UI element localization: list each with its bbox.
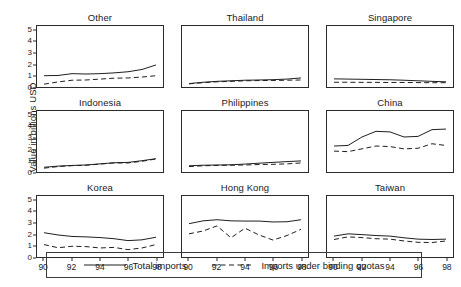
plot-area [36,25,164,88]
series-line-binding-quotas [44,76,156,84]
y-tick-label: 0 [28,84,32,92]
x-tick-mark [446,258,447,261]
small-multiples-figure: Value in billions USD Other012345Thailan… [0,0,461,287]
y-tick-mark [33,138,36,139]
y-tick-label: 2 [28,61,32,69]
panel-other: Other012345 [36,25,164,88]
panel-philippines: Philippines [181,110,309,173]
panel-hong-kong: Hong Kong9092949698 [181,195,309,258]
plot-area [36,195,164,258]
y-tick-mark [33,41,36,42]
panel-thailand: Thailand [181,25,309,88]
y-tick-label: 4 [28,122,32,130]
y-tick-label: 1 [28,72,32,80]
panel-title: China [326,97,454,108]
panel-title: Hong Kong [181,182,309,193]
y-tick-mark [33,53,36,54]
legend-entry: Total imports [84,260,187,271]
panel-title: Indonesia [36,97,164,108]
y-axis-ticks: 012345 [20,25,36,88]
legend-entry: Imports under binding quotas [212,260,384,271]
y-tick-label: 5 [28,196,32,204]
plot-area [326,195,454,258]
panel-korea: Korea0123459092949698 [36,195,164,258]
series-line-total-imports [44,65,156,76]
y-tick-mark [33,173,36,174]
series-line-binding-quotas [334,144,446,152]
panel-title: Taiwan [326,182,454,193]
y-tick-label: 5 [28,26,32,34]
plot-area [181,110,309,173]
y-tick-mark [33,126,36,127]
y-tick-mark [33,76,36,77]
y-tick-label: 1 [28,242,32,250]
y-tick-mark [33,88,36,89]
y-tick-mark [33,149,36,150]
y-axis-ticks: 012345 [20,195,36,258]
y-tick-mark [33,199,36,200]
y-tick-mark [33,114,36,115]
series-line-total-imports [334,129,446,146]
panel-china: China [326,110,454,173]
y-tick-label: 4 [28,207,32,215]
series-line-total-imports [334,79,446,82]
plot-area [326,25,454,88]
panel-indonesia: Indonesia012345 [36,110,164,173]
y-tick-label: 1 [28,157,32,165]
legend-label: Total imports [133,260,187,271]
plot-area [36,110,164,173]
y-axis-ticks: 012345 [20,110,36,173]
y-tick-mark [33,211,36,212]
series-line-total-imports [44,233,156,241]
x-tick-mark [43,258,44,261]
plot-area [326,110,454,173]
y-tick-mark [33,246,36,247]
y-tick-label: 0 [28,254,32,262]
panel-title: Thailand [181,12,309,23]
y-tick-label: 5 [28,111,32,119]
y-tick-label: 3 [28,219,32,227]
y-tick-mark [33,161,36,162]
panel-title: Other [36,12,164,23]
panel-taiwan: Taiwan9092949698 [326,195,454,258]
panel-title: Singapore [326,12,454,23]
plot-area [181,195,309,258]
y-tick-mark [33,64,36,65]
y-tick-label: 4 [28,37,32,45]
y-tick-label: 2 [28,146,32,154]
panel-grid: Other012345ThailandSingaporeIndonesia012… [36,12,454,244]
series-line-total-imports [189,220,301,224]
y-tick-label: 3 [28,134,32,142]
series-line-total-imports [189,161,301,166]
legend-line-solid-icon [84,261,126,269]
panel-title: Korea [36,182,164,193]
legend-line-dashed-icon [212,261,254,269]
y-tick-mark [33,234,36,235]
legend-label: Imports under binding quotas [261,260,384,271]
series-line-binding-quotas [44,245,156,250]
y-tick-mark [33,29,36,30]
x-tick-label: 98 [442,263,451,272]
series-line-binding-quotas [189,226,301,240]
plot-area [181,25,309,88]
panel-title: Philippines [181,97,309,108]
y-tick-label: 3 [28,49,32,57]
y-tick-mark [33,223,36,224]
y-tick-label: 0 [28,169,32,177]
chart-legend: Total importsImports under binding quota… [46,252,422,278]
y-tick-label: 2 [28,231,32,239]
panel-singapore: Singapore [326,25,454,88]
